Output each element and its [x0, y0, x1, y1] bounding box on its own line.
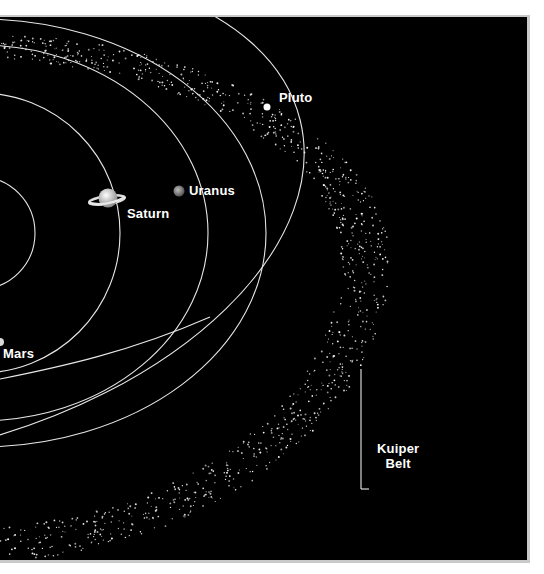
orbit-saturn: [0, 93, 120, 373]
pluto-label: Pluto: [279, 90, 313, 105]
uranus-label: Uranus: [189, 183, 235, 198]
pluto-dot-icon: [264, 104, 271, 111]
kuiper-belt-label: Kuiper Belt: [377, 441, 419, 471]
saturn-ringed-planet-icon: [89, 189, 126, 208]
kuiper-label-line2: Belt: [377, 456, 419, 471]
kuiper-leader-line: [361, 369, 369, 489]
kuiper-label-line1: Kuiper: [377, 441, 419, 456]
mars-label: Mars: [3, 346, 34, 361]
saturn-label: Saturn: [127, 206, 169, 221]
uranus-planet-icon: [174, 186, 185, 197]
orbit-diagram: [0, 17, 527, 560]
mars-planet-icon: [0, 338, 4, 346]
orbit-inner: [0, 177, 35, 289]
space-background: Pluto Uranus Saturn Mars Kuiper Belt: [0, 17, 527, 560]
orbit-neptune: [0, 19, 266, 447]
orbit-uranus: [0, 45, 208, 421]
